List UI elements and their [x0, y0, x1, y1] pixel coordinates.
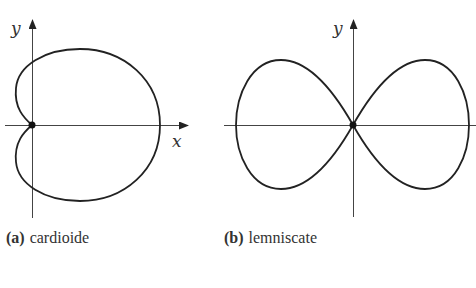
caption-tag: (a)	[6, 229, 25, 246]
origin-point	[350, 122, 357, 129]
y-axis-label: y	[332, 18, 343, 38]
caption-text: cardioide	[30, 229, 90, 246]
x-axis-label: x	[172, 131, 182, 151]
origin-point	[29, 122, 36, 129]
y-axis-label: y	[10, 18, 21, 38]
panel-a-cardioid: y x	[5, 18, 188, 218]
caption-text: lemniscate	[249, 229, 317, 246]
panel-b-lemniscate: y	[224, 18, 476, 217]
caption-a: (a)cardioide	[6, 229, 89, 247]
caption-tag: (b)	[224, 229, 244, 246]
caption-b: (b)lemniscate	[224, 229, 317, 247]
